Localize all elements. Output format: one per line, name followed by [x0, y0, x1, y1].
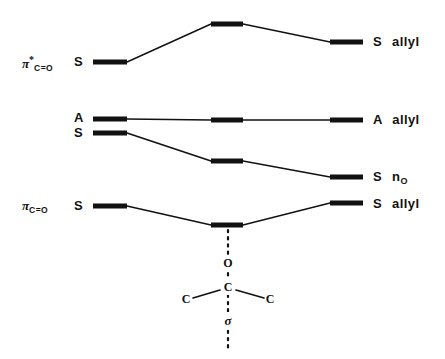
mo-correlation-diagram: π*C=O πC=O S A S S S allyl A allyl S nO … [0, 0, 445, 359]
atom-text: C [224, 280, 233, 294]
right-label-symmetry: S [373, 169, 382, 184]
right-label-subscript: O [400, 176, 407, 186]
symmetry-letter-s-no: S [74, 126, 83, 139]
orbital-label-pi-co: πC=O [22, 199, 48, 215]
connector-left-to-center [127, 119, 211, 120]
symmetry-letter-text: S [74, 54, 83, 69]
subscript-co: C=O [34, 63, 53, 73]
right-label-s-allyl-top: S allyl [373, 35, 419, 48]
connector-center-to-right [243, 24, 330, 42]
orbital-label-pi-star-co: π*C=O [22, 55, 53, 73]
subscript-co: C=O [29, 205, 48, 215]
connector-left-to-center [127, 206, 211, 225]
right-label-symmetry: S [373, 196, 382, 211]
atom-text: C [266, 292, 275, 306]
right-label-a-allyl: A allyl [373, 113, 420, 126]
right-label-symmetry: A [373, 112, 382, 127]
symmetry-letter-a: A [74, 111, 84, 124]
atom-label-c-center: C [224, 281, 233, 293]
symmetry-letter-text: S [74, 198, 83, 213]
right-label-symmetry: S [373, 34, 382, 49]
connector-center-to-right [243, 161, 330, 177]
right-label-name: allyl [392, 112, 419, 127]
bond-c-cleft [193, 290, 220, 298]
atom-label-c-left: C [182, 293, 191, 305]
correlation-line-pi-star-co-to-s-allyl [93, 24, 363, 62]
atom-text: O [223, 256, 232, 270]
bond-c-cright [236, 290, 264, 298]
right-label-name: allyl [392, 34, 419, 49]
right-label-name: allyl [392, 196, 419, 211]
atom-label-c-right: C [266, 293, 275, 305]
connector-left-to-center [127, 133, 211, 161]
atom-text: C [182, 292, 191, 306]
symmetry-letter-text: A [74, 110, 84, 125]
symmetry-letter-pi: S [74, 199, 83, 212]
right-label-s-n-o: S nO [373, 170, 408, 186]
sigma-label: σ [224, 314, 231, 327]
symmetry-letter-pi-star: S [74, 55, 83, 68]
correlation-line-a-to-a-allyl [93, 119, 363, 120]
correlation-line-pi-co-to-s-allyl [93, 203, 363, 225]
sigma-text: σ [224, 313, 231, 328]
symmetry-letter-text: S [74, 125, 83, 140]
atom-label-o: O [223, 257, 232, 269]
right-label-s-allyl-bottom: S allyl [373, 197, 419, 210]
correlation-line-s-to-s-n-o [93, 133, 363, 177]
connector-left-to-center [127, 24, 211, 62]
connector-center-to-right [243, 203, 330, 225]
